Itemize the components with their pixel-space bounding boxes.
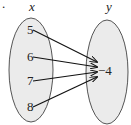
domain-value-6: 6 xyxy=(27,49,34,64)
mapping-diagram: . x 5 6 7 8 y −4 xyxy=(0,0,131,125)
range-value-neg4: −4 xyxy=(98,63,112,78)
domain-value-5: 5 xyxy=(27,22,34,37)
domain-value-8: 8 xyxy=(27,99,34,114)
range-set: y −4 xyxy=(86,0,128,124)
domain-set: x 5 6 7 8 xyxy=(9,0,53,122)
range-label: y xyxy=(104,0,112,14)
domain-label: x xyxy=(28,0,35,14)
bullet-dot: . xyxy=(2,0,5,11)
